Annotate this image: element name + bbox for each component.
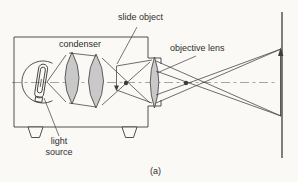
condenser-lens-1 [65, 52, 79, 104]
leader-line-slide-object [117, 27, 137, 64]
label-slide-object: slide object [118, 12, 163, 23]
object-point-dot [124, 81, 128, 85]
light-ray [117, 90, 153, 103]
label-objective-lens: objective lens [170, 43, 225, 54]
leader-line-objective-lens [157, 56, 196, 73]
lamp-filament [40, 79, 41, 87]
figure-caption: (a) [150, 166, 161, 176]
lamp-bulb [33, 64, 48, 103]
figure-projector-diagram: slide object objective lens condenser li… [0, 0, 298, 182]
light-ray [156, 71, 281, 116]
condenser-lens-2 [89, 54, 104, 108]
label-light-source-line2: source [34, 147, 84, 158]
light-ray [47, 55, 66, 82]
light-ray [156, 49, 281, 103]
label-light-source-line1: light [34, 136, 84, 147]
label-light-source: light source [34, 136, 84, 158]
focal-point-dot [184, 81, 188, 85]
light-ray [156, 61, 281, 116]
light-ray [47, 82, 66, 102]
box-foot-right [122, 127, 137, 138]
objective-lens-shape [150, 57, 159, 108]
label-condenser: condenser [59, 39, 101, 50]
light-ray [69, 103, 96, 107]
leader-line-light-source [44, 98, 59, 136]
lamp-base [35, 96, 43, 102]
